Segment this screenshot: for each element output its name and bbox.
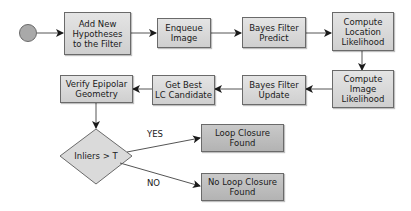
node-verify-epipolar-geometry: Verify Epipolar Geometry xyxy=(60,75,133,103)
node-bayes-update: Bayes Filter Update xyxy=(242,75,306,105)
node-get-best-lc-candidate: Get Best LC Candidate xyxy=(152,75,215,105)
start-node xyxy=(20,25,37,42)
node-add-hypotheses: Add New Hypotheses to the Filter xyxy=(64,12,131,55)
node-enqueue-image: Enqueue Image xyxy=(157,18,211,48)
edge-label-no: NO xyxy=(147,178,160,188)
node-loop-closure-found: Loop Closure Found xyxy=(201,124,284,152)
edge-decision-yes xyxy=(127,138,200,152)
node-compute-location-likelihood: Compute Location Likelihood xyxy=(332,12,394,51)
decision-label: Inliers > T xyxy=(60,151,132,161)
node-bayes-predict: Bayes Filter Predict xyxy=(242,17,306,48)
node-no-loop-closure-found: No Loop Closure Found xyxy=(201,173,284,201)
edge-label-yes: YES xyxy=(147,129,163,139)
node-compute-image-likelihood: Compute Image Likelihood xyxy=(332,70,394,108)
